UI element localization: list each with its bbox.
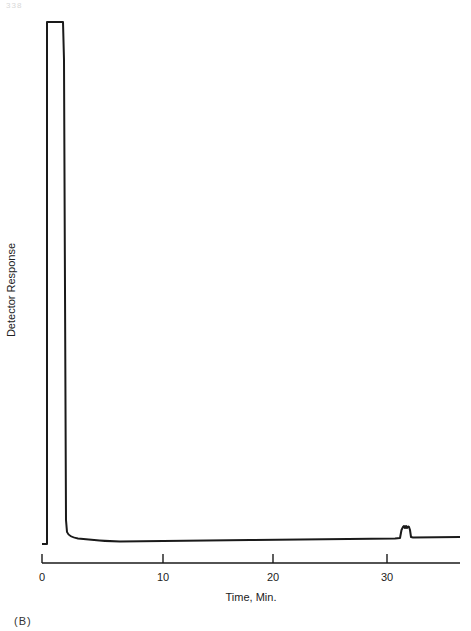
x-tick-label-30: 30 <box>381 571 393 583</box>
detector-trace <box>42 22 460 544</box>
x-tick-label-0: 0 <box>39 571 45 583</box>
x-tick-label-10: 10 <box>157 571 169 583</box>
x-axis-label: Time, Min. <box>226 591 277 603</box>
chromatogram-plot <box>0 0 471 631</box>
y-axis-label: Detector Response <box>5 243 17 337</box>
x-tick-label-20: 20 <box>267 571 279 583</box>
panel-label: (B) <box>14 615 32 627</box>
